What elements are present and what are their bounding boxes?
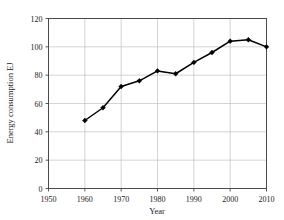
y-tick-label: 80 (35, 71, 43, 80)
x-tick-label: 1990 (186, 195, 202, 204)
y-tick-label: 20 (35, 156, 43, 165)
gridlines-group (49, 19, 267, 189)
x-tick-label: 1950 (41, 195, 57, 204)
y-tick-label: 0 (39, 185, 43, 194)
x-tick-label: 2010 (259, 195, 275, 204)
line-chart-plot: 020406080100120 195019601970198019902000… (0, 0, 284, 220)
y-tick-label: 40 (35, 128, 43, 137)
y-tick-label: 60 (35, 100, 43, 109)
data-series-markers (82, 37, 268, 123)
x-axis-title: Year (149, 206, 165, 216)
y-tick-labels-group: 020406080100120 (31, 15, 43, 194)
data-point-marker (246, 37, 251, 42)
y-tick-label: 100 (31, 43, 43, 52)
x-tick-label: 2000 (222, 195, 238, 204)
y-tick-label: 120 (31, 15, 43, 24)
chart-figure: 020406080100120 195019601970198019902000… (0, 0, 284, 220)
data-point-marker (264, 44, 269, 49)
x-tick-label: 1960 (77, 195, 93, 204)
x-tick-label: 1970 (113, 195, 129, 204)
x-tick-label: 1980 (150, 195, 166, 204)
x-tick-labels-group: 1950196019701980199020002010 (41, 195, 275, 204)
y-axis-title: Energy consumption EJ (5, 62, 15, 144)
data-series-line (85, 40, 267, 121)
